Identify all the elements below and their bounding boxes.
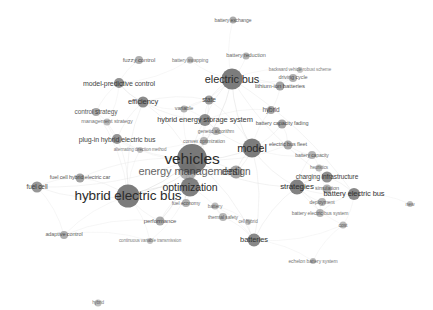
graph-node[interactable] — [205, 96, 214, 105]
graph-node[interactable] — [407, 201, 413, 207]
graph-edge — [209, 100, 252, 148]
graph-node[interactable] — [243, 139, 262, 158]
edge-layer — [37, 20, 410, 261]
graph-node[interactable] — [76, 174, 85, 183]
graph-node[interactable] — [316, 209, 324, 217]
graph-edge — [232, 79, 354, 194]
graph-edge — [37, 187, 128, 198]
graph-node[interactable] — [114, 78, 124, 88]
graph-node[interactable] — [104, 119, 111, 126]
graph-node[interactable] — [156, 217, 165, 226]
graph-edge — [96, 83, 119, 112]
graph-node[interactable] — [137, 147, 143, 153]
graph-node[interactable] — [222, 69, 243, 90]
graph-node[interactable] — [243, 53, 250, 60]
graph-edge — [150, 187, 190, 241]
graph-edge — [232, 79, 252, 148]
graph-edge — [119, 60, 190, 83]
graph-edge — [252, 148, 259, 240]
graph-edge — [117, 102, 143, 139]
graph-node[interactable] — [219, 213, 227, 221]
graph-node[interactable] — [135, 56, 143, 64]
graph-node[interactable] — [290, 180, 305, 195]
graph-edge — [64, 232, 150, 241]
graph-edge — [96, 112, 117, 139]
graph-node[interactable] — [230, 166, 243, 179]
graph-edge — [297, 187, 343, 225]
graph-node[interactable] — [147, 238, 153, 244]
graph-node[interactable] — [322, 172, 333, 183]
graph-node[interactable] — [212, 127, 220, 135]
graph-node[interactable] — [245, 219, 251, 225]
graph-edge — [205, 109, 271, 120]
graph-node[interactable] — [297, 67, 303, 73]
graph-edge — [143, 97, 209, 102]
graph-node[interactable] — [284, 141, 293, 150]
graph-node[interactable] — [318, 198, 326, 206]
graph-edge — [254, 225, 343, 241]
graph-edge — [37, 178, 80, 187]
graph-edge — [37, 187, 64, 235]
graph-node[interactable] — [199, 114, 211, 126]
graph-node[interactable] — [212, 203, 219, 210]
node-layer — [32, 17, 414, 307]
graph-edge — [232, 79, 327, 177]
graph-node[interactable] — [182, 199, 190, 207]
graph-node[interactable] — [187, 57, 194, 64]
graph-edge — [354, 194, 410, 204]
graph-node[interactable] — [95, 300, 102, 307]
graph-edge — [313, 225, 343, 261]
graph-edge — [254, 240, 313, 261]
graph-node[interactable] — [267, 106, 275, 114]
graph-edge — [80, 158, 192, 178]
graph-node[interactable] — [181, 178, 200, 197]
graph-node[interactable] — [276, 82, 285, 91]
graph-node[interactable] — [60, 231, 68, 239]
graph-node[interactable] — [340, 222, 347, 229]
graph-node[interactable] — [289, 74, 297, 82]
graph-node[interactable] — [179, 162, 197, 180]
graph-node[interactable] — [32, 182, 43, 193]
graph-edge — [107, 83, 119, 122]
graph-node[interactable] — [308, 151, 316, 159]
graph-node[interactable] — [181, 106, 188, 113]
graph-node[interactable] — [316, 165, 323, 172]
network-graph-svg — [0, 0, 433, 310]
graph-edge — [254, 187, 297, 240]
graph-node[interactable] — [230, 17, 237, 24]
graph-node[interactable] — [138, 97, 149, 108]
graph-node[interactable] — [278, 120, 287, 129]
network-map-canvas[interactable]: vehicleshybrid electric busenergy manage… — [0, 0, 433, 310]
graph-node[interactable] — [117, 185, 140, 208]
graph-node[interactable] — [248, 234, 261, 247]
graph-node[interactable] — [112, 134, 122, 144]
graph-edge — [192, 159, 254, 240]
graph-node[interactable] — [92, 108, 100, 116]
graph-node[interactable] — [323, 185, 332, 194]
graph-node[interactable] — [310, 258, 316, 264]
graph-node[interactable] — [200, 137, 208, 145]
graph-node[interactable] — [348, 188, 360, 200]
